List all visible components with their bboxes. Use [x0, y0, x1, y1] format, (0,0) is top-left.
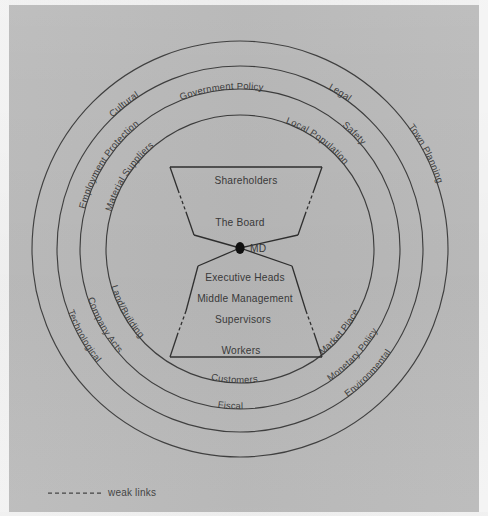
org-label-shareholders: Shareholders: [215, 175, 278, 186]
ring-label-legal: Legal: [327, 81, 354, 103]
org-label-the-board: The Board: [215, 217, 265, 228]
legend-label: weak links: [107, 487, 156, 498]
stakeholder-rings-diagram: Cultural Legal Employment Protection Gov…: [0, 0, 488, 516]
org-label-supervisors: Supervisors: [215, 314, 271, 325]
ring-label-local-population: Local Population: [285, 114, 352, 166]
ring-label-land-building-text: Land/Building: [109, 284, 147, 340]
ring-label-customers-text: Customers: [210, 371, 258, 385]
lower-right-weak-link: [306, 311, 314, 333]
lower-left-side-upper: [186, 266, 198, 311]
ring-label-cultural-text: Cultural: [107, 89, 141, 119]
ring-label-safety: Safety: [341, 119, 369, 147]
upper-right-side-lower: [298, 212, 306, 235]
ring-label-cultural: Cultural: [107, 89, 141, 119]
legend: weak links: [48, 487, 156, 498]
upper-left-weak-link: [178, 190, 186, 212]
org-label-middle-management: Middle Management: [197, 293, 293, 304]
ring-label-customers: Customers: [210, 371, 258, 385]
ring-label-local-population-text: Local Population: [285, 114, 352, 166]
ring-label-government-policy: Government Policy: [178, 80, 264, 102]
diagram-page: Cultural Legal Employment Protection Gov…: [0, 0, 488, 516]
ring-label-town-planning-text: Town Planning: [407, 122, 446, 185]
md-to-lower-left-shoulder: [198, 248, 240, 266]
ring-label-legal-text: Legal: [327, 81, 354, 103]
lower-left-side-lower: [170, 333, 178, 357]
upper-left-side-upper: [170, 167, 178, 190]
org-label-md: MD: [250, 243, 266, 254]
ring-label-town-planning: Town Planning: [407, 122, 446, 185]
ring-label-land-building: Land/Building: [109, 284, 147, 340]
md-pivot-dot: [235, 242, 244, 254]
lower-left-weak-link: [178, 311, 186, 333]
organisation-hourglass: [170, 167, 322, 357]
org-label-executive-heads: Executive Heads: [205, 272, 284, 283]
ring-label-fiscal-text: Fiscal: [217, 399, 243, 412]
upper-right-shoulder-to-md: [240, 235, 298, 248]
lower-right-side-upper: [292, 266, 306, 311]
ring-label-safety-text: Safety: [341, 119, 369, 147]
upper-right-side-upper: [314, 167, 322, 190]
upper-left-shoulder-to-md: [194, 235, 240, 248]
org-label-workers: Workers: [221, 345, 260, 356]
ring-label-fiscal: Fiscal: [217, 399, 243, 412]
upper-left-side-lower: [186, 212, 194, 235]
ring-label-government-policy-text: Government Policy: [178, 80, 264, 102]
upper-right-weak-link: [306, 190, 314, 212]
